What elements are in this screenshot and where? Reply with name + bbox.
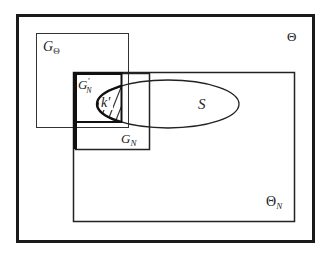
g-theta-label: GΘ xyxy=(43,39,60,56)
set-diagram: Θ GΘ G′N k′ S GN ΘN xyxy=(0,0,327,254)
theta-n-label: ΘN xyxy=(266,194,283,211)
k-prime-label: k′ xyxy=(101,95,111,110)
g-n-prime-label: G′N xyxy=(78,76,92,95)
theta-label: Θ xyxy=(287,29,296,44)
g-n-label: GN xyxy=(121,131,137,148)
s-label: S xyxy=(198,96,206,112)
